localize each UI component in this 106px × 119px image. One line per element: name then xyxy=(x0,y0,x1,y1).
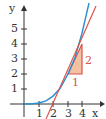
rise-label: 2 xyxy=(85,55,92,66)
y-axis-arrow-icon xyxy=(21,5,27,11)
y-axis-label: y xyxy=(9,3,15,14)
x-tick-3: 3 xyxy=(65,108,72,119)
y-tick-2: 2 xyxy=(11,68,18,79)
x-tick-2: 2 xyxy=(50,108,57,119)
y-tick-3: 3 xyxy=(11,53,18,64)
x-tick-1: 1 xyxy=(36,108,43,119)
x-axis-arrow-icon xyxy=(100,101,105,107)
x-axis-label: x xyxy=(92,108,98,119)
run-label: 1 xyxy=(72,77,79,88)
y-tick-1: 1 xyxy=(11,83,18,94)
y-tick-5: 5 xyxy=(11,23,18,34)
x-tick-4: 4 xyxy=(79,108,86,119)
y-tick-4: 4 xyxy=(11,38,18,49)
